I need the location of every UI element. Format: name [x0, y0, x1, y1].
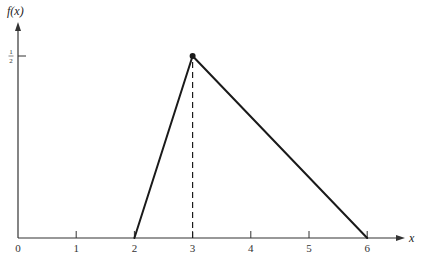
- tick-labels: xf(x)012345612: [7, 4, 415, 254]
- x-tick-label-2: 2: [132, 242, 138, 254]
- triangular-density-chart: xf(x)012345612: [0, 0, 422, 265]
- axes: [15, 22, 405, 241]
- density-segment-0: [134, 56, 192, 238]
- density-segment-1: [193, 56, 368, 238]
- x-tick-label-0: 0: [15, 242, 21, 254]
- x-tick-label-1: 1: [73, 242, 79, 254]
- chart-marks: [134, 53, 367, 238]
- x-axis-label: x: [408, 231, 415, 245]
- y-axis-label: f(x): [7, 4, 24, 18]
- x-tick-label-5: 5: [306, 242, 312, 254]
- x-tick-label-4: 4: [248, 242, 254, 254]
- y-tick-label-numerator: 1: [9, 48, 13, 56]
- peak-point-marker: [190, 53, 196, 59]
- y-tick-label-denominator: 2: [9, 57, 13, 65]
- x-tick-label-6: 6: [364, 242, 370, 254]
- x-tick-label-3: 3: [190, 242, 196, 254]
- x-axis-arrow: [396, 235, 405, 241]
- y-axis-arrow: [15, 22, 21, 31]
